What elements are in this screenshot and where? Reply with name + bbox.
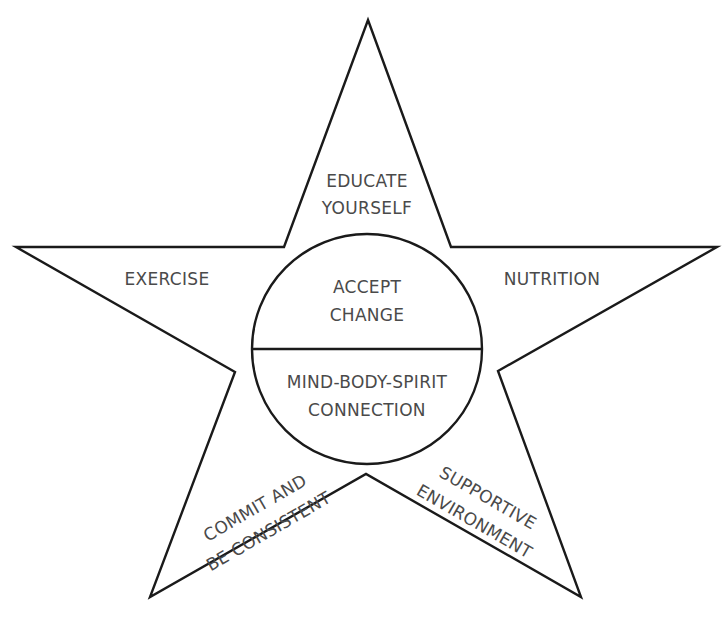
label-change: CHANGE	[330, 305, 405, 325]
label-connection: CONNECTION	[308, 400, 426, 420]
label-educate-line2: YOURSELF	[321, 198, 412, 218]
label-educate-line1: EDUCATE	[326, 171, 408, 191]
label-exercise: EXERCISE	[125, 269, 210, 289]
label-nutrition: NUTRITION	[504, 269, 601, 289]
label-mind-body-spirit: MIND-BODY-SPIRIT	[287, 372, 448, 392]
label-accept: ACCEPT	[333, 277, 402, 297]
star-diagram: EDUCATE YOURSELF EXERCISE NUTRITION ACCE…	[0, 0, 723, 629]
